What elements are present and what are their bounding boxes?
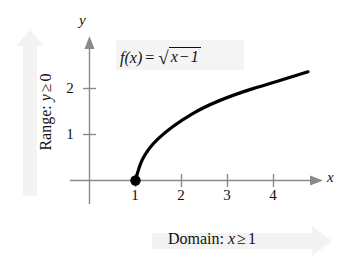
function-graph-figure: y x 1 2 3 4 1 2 f(x)=√x−1 Range: y≥0 Dom…: [0, 0, 349, 263]
domain-variable: x: [228, 230, 235, 247]
range-variable: y: [37, 94, 54, 101]
formula-radicand: x−1: [169, 47, 201, 65]
x-tick-label-4: 4: [265, 188, 281, 203]
domain-relation-symbol: ≥: [237, 230, 246, 247]
range-value: 0: [37, 73, 54, 81]
x-axis-arrowhead: [310, 176, 323, 186]
endpoint-dot: [130, 175, 140, 185]
x-axis-label: x: [327, 170, 334, 185]
range-annotation: Range: y≥0: [38, 32, 54, 192]
y-axis-arrowhead: [85, 36, 95, 49]
x-tick-label-2: 2: [173, 188, 189, 203]
x-tick-label-3: 3: [219, 188, 235, 203]
range-relation-symbol: ≥: [37, 83, 54, 92]
y-tick-label-2: 2: [62, 81, 78, 96]
sqrt-curve: [136, 72, 309, 181]
y-axis-label: y: [79, 13, 86, 28]
domain-value: 1: [248, 230, 256, 247]
formula-function-name: f(x): [120, 49, 142, 66]
radicand-minus-sign: −: [180, 48, 189, 65]
y-tick-label-1: 1: [62, 127, 78, 142]
radicand-constant: 1: [191, 48, 199, 65]
x-tick-label-1: 1: [127, 188, 143, 203]
formula-radical: √x−1: [157, 47, 201, 66]
domain-annotation: Domain: x≥1: [168, 231, 256, 247]
formula-equals-sign: =: [145, 49, 154, 66]
radicand-variable: x: [171, 48, 178, 65]
domain-prefix: Domain:: [168, 230, 224, 247]
radical-sign-icon: √: [158, 47, 168, 68]
range-prefix: Range:: [37, 105, 54, 150]
function-formula: f(x)=√x−1: [120, 47, 201, 66]
